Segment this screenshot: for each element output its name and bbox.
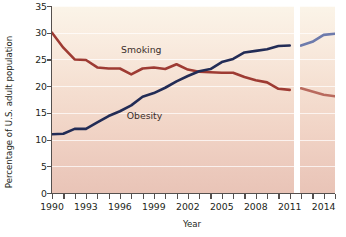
y-tick-label: 35 [7, 2, 47, 11]
x-tick [63, 194, 64, 199]
x-tick [75, 194, 76, 199]
series-break-band [294, 6, 299, 193]
x-tick [86, 194, 87, 199]
x-tick [267, 194, 268, 199]
chart-figure: Percentage of U.S. adult population Smok… [0, 0, 346, 237]
x-tick [290, 194, 291, 199]
y-tick [47, 140, 52, 141]
x-axis-line [51, 193, 335, 194]
x-tick [109, 194, 110, 199]
x-tick [52, 194, 53, 199]
y-tick [47, 166, 52, 167]
x-tick [222, 194, 223, 199]
x-tick [143, 194, 144, 199]
x-tick [154, 194, 155, 199]
x-tick [188, 194, 189, 199]
x-tick [312, 194, 313, 199]
y-tick-label: 0 [7, 189, 47, 198]
y-tick [47, 86, 52, 87]
series-label-smoking: Smoking [121, 44, 161, 55]
plot-area: SmokingObesity [52, 6, 335, 193]
y-tick [47, 113, 52, 114]
x-tick [233, 194, 234, 199]
x-tick [256, 194, 257, 199]
x-tick-label: 2014 [304, 201, 344, 212]
x-tick [199, 194, 200, 199]
x-axis-label: Year [52, 219, 332, 229]
y-tick-label: 30 [7, 28, 47, 37]
x-tick [301, 194, 302, 199]
x-tick [120, 194, 121, 199]
x-tick [177, 194, 178, 199]
y-tick-label: 5 [7, 162, 47, 171]
y-tick-label: 15 [7, 108, 47, 117]
series-line [301, 88, 335, 96]
y-tick-label: 10 [7, 135, 47, 144]
x-tick [244, 194, 245, 199]
series-line [52, 46, 290, 135]
y-tick [47, 33, 52, 34]
y-tick-label: 20 [7, 82, 47, 91]
y-tick [47, 6, 52, 7]
series-lines [52, 6, 335, 193]
x-tick [278, 194, 279, 199]
series-label-obesity: Obesity [127, 110, 163, 121]
series-line [52, 33, 290, 90]
x-tick [335, 194, 336, 199]
x-tick [97, 194, 98, 199]
series-line [301, 34, 335, 46]
x-tick [131, 194, 132, 199]
x-tick [210, 194, 211, 199]
x-tick [324, 194, 325, 199]
x-tick [165, 194, 166, 199]
y-tick [47, 59, 52, 60]
y-tick-label: 25 [7, 55, 47, 64]
